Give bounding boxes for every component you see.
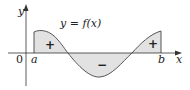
- y-axis-label: y: [17, 5, 25, 18]
- area-diagram: y y = f(x) 0 a b x + − +: [0, 0, 190, 90]
- negative-region-sign: −: [97, 58, 107, 72]
- y-axis-arrow-icon: [24, 4, 29, 11]
- x-axis-label: x: [176, 53, 183, 66]
- positive-region-sign-2: +: [148, 37, 158, 51]
- function-label: y = f(x): [59, 17, 101, 30]
- bound-a-label: a: [31, 53, 38, 66]
- positive-region-sign: +: [45, 38, 55, 52]
- bound-b-label: b: [158, 53, 165, 66]
- origin-label: 0: [16, 53, 23, 66]
